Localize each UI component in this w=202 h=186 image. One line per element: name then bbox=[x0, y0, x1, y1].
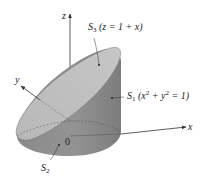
origin-label: 0 bbox=[65, 137, 70, 147]
x-axis bbox=[121, 127, 186, 134]
z-axis-label: z bbox=[62, 11, 66, 21]
s3-label: S3 (z = 1 + x) bbox=[88, 22, 143, 34]
y-axis bbox=[21, 86, 40, 100]
s1-label: S1 (x2 + y2 = 1) bbox=[127, 90, 189, 103]
s2-label: S2 bbox=[41, 163, 50, 175]
x-axis-label: x bbox=[188, 122, 192, 132]
y-axis-label: y bbox=[15, 75, 19, 85]
